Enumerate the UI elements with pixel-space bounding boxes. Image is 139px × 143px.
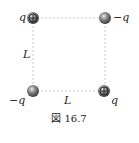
charge-label: q [19, 11, 26, 24]
charge-bottom-right: q [98, 85, 118, 107]
figure-caption: 図 16.7 [51, 113, 86, 124]
plus-icon [29, 14, 37, 22]
charge-label: −q [113, 11, 129, 24]
charge-top-left: q [19, 11, 39, 24]
square-charge-diagram: q −q −q q L L 図 16.7 [0, 0, 139, 143]
charge-label: q [111, 94, 118, 107]
charge-bottom-left: −q [9, 85, 39, 107]
plus-icon [100, 87, 108, 95]
sphere-icon [99, 12, 111, 24]
square-edges [33, 18, 105, 91]
sphere-icon [27, 85, 39, 97]
side-length-label-horizontal: L [63, 94, 71, 107]
side-length-label-vertical: L [22, 48, 30, 61]
charge-label: −q [9, 94, 25, 107]
charge-top-right: −q [99, 11, 129, 24]
